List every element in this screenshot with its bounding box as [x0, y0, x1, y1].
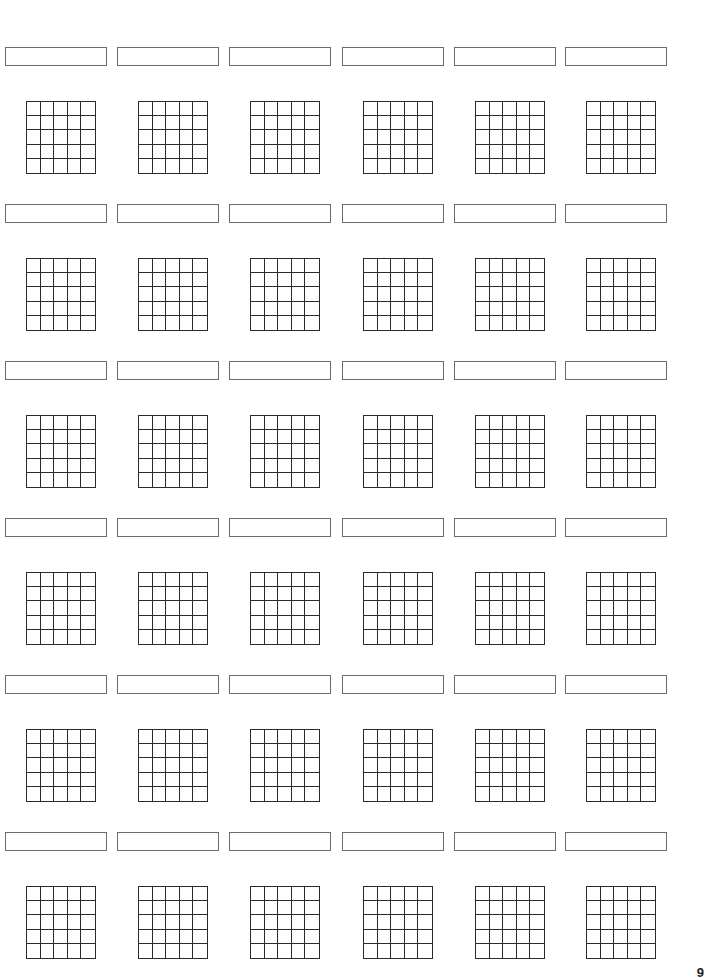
chord-name-box[interactable] [342, 832, 444, 851]
fret-cell [180, 773, 194, 787]
chord-name-box[interactable] [229, 518, 331, 537]
fret-cell [139, 444, 153, 458]
fret-cell [418, 758, 432, 772]
chord-name-box[interactable] [5, 675, 107, 694]
fret-cell [153, 901, 167, 915]
fret-cell [166, 915, 180, 929]
chord-name-box[interactable] [5, 204, 107, 223]
chord-diagram [565, 361, 669, 511]
fretboard-grid [138, 258, 208, 331]
chord-name-box[interactable] [342, 675, 444, 694]
fret-cell [27, 944, 41, 958]
chord-diagram [342, 675, 446, 825]
chord-name-box[interactable] [565, 832, 667, 851]
chord-name-box[interactable] [565, 518, 667, 537]
fret-cell [166, 587, 180, 601]
fretboard-grid [363, 258, 433, 331]
fret-cell [490, 573, 504, 587]
chord-name-box[interactable] [565, 204, 667, 223]
fret-cell [517, 773, 531, 787]
fret-cell [139, 944, 153, 958]
chord-name-box[interactable] [229, 361, 331, 380]
chord-name-box[interactable] [117, 361, 219, 380]
fret-cell [278, 102, 292, 116]
fret-cell [405, 758, 419, 772]
fretboard-grid [363, 572, 433, 645]
fret-cell [54, 901, 68, 915]
chord-name-box[interactable] [229, 204, 331, 223]
chord-name-box[interactable] [117, 675, 219, 694]
fret-cell [41, 787, 55, 801]
fret-cell [503, 302, 517, 316]
fret-cell [54, 145, 68, 159]
fret-cell [27, 915, 41, 929]
fret-cell [476, 630, 490, 644]
chord-diagram [565, 675, 669, 825]
fret-cell [517, 730, 531, 744]
fret-cell [81, 430, 95, 444]
fret-cell [641, 944, 655, 958]
fret-cell [614, 730, 628, 744]
fret-cell [476, 744, 490, 758]
chord-name-box[interactable] [342, 361, 444, 380]
fret-cell [54, 416, 68, 430]
fret-cell [476, 473, 490, 487]
fret-cell [476, 587, 490, 601]
chord-name-box[interactable] [454, 518, 556, 537]
chord-name-box[interactable] [454, 204, 556, 223]
chord-name-box[interactable] [342, 204, 444, 223]
chord-name-box[interactable] [229, 832, 331, 851]
fret-cell [601, 102, 615, 116]
fret-cell [405, 587, 419, 601]
fret-cell [418, 730, 432, 744]
chord-name-box[interactable] [229, 675, 331, 694]
fret-cell [628, 430, 642, 444]
fret-cell [587, 259, 601, 273]
chord-name-box[interactable] [5, 47, 107, 66]
chord-name-box[interactable] [342, 47, 444, 66]
fret-cell [391, 758, 405, 772]
fret-cell [391, 130, 405, 144]
fretboard-grid [475, 729, 545, 802]
chord-name-box[interactable] [117, 204, 219, 223]
fret-cell [503, 915, 517, 929]
fret-cell [530, 430, 544, 444]
fret-cell [378, 416, 392, 430]
chord-name-box[interactable] [5, 832, 107, 851]
fret-cell [601, 744, 615, 758]
chord-name-box[interactable] [342, 518, 444, 537]
chord-name-box[interactable] [565, 675, 667, 694]
fret-cell [517, 430, 531, 444]
chord-name-box[interactable] [117, 832, 219, 851]
page-number: 9 [697, 965, 704, 980]
fret-cell [180, 430, 194, 444]
chord-diagram [117, 675, 221, 825]
chord-name-box[interactable] [5, 361, 107, 380]
fret-cell [68, 259, 82, 273]
chord-name-box[interactable] [5, 518, 107, 537]
fret-cell [490, 901, 504, 915]
chord-name-box[interactable] [454, 832, 556, 851]
chord-name-box[interactable] [117, 518, 219, 537]
chord-name-box[interactable] [454, 47, 556, 66]
fret-cell [391, 787, 405, 801]
chord-name-box[interactable] [454, 675, 556, 694]
fret-cell [628, 730, 642, 744]
chord-diagram [229, 204, 333, 354]
fret-cell [517, 444, 531, 458]
fret-cell [153, 287, 167, 301]
chord-name-box[interactable] [565, 361, 667, 380]
fret-cell [378, 915, 392, 929]
chord-name-box[interactable] [454, 361, 556, 380]
chord-name-box[interactable] [117, 47, 219, 66]
fret-cell [68, 930, 82, 944]
fret-cell [405, 887, 419, 901]
chord-diagram [117, 361, 221, 511]
chord-name-box[interactable] [229, 47, 331, 66]
fret-cell [81, 601, 95, 615]
fret-cell [641, 430, 655, 444]
fret-cell [251, 316, 265, 330]
chord-name-box[interactable] [565, 47, 667, 66]
fret-cell [193, 887, 207, 901]
fret-cell [41, 444, 55, 458]
